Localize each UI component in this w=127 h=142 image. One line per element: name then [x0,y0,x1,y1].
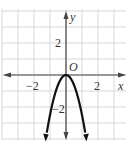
x-tick-label-2: 2 [94,79,100,93]
coordinate-plane: −2 2 2 −2 O x y [0,0,127,142]
axis-labels: −2 2 2 −2 O x y [26,10,124,116]
y-tick-label-neg2: −2 [52,102,65,116]
origin-label: O [69,60,78,74]
y-axis-label: y [69,10,76,24]
y-tick-label-2: 2 [55,36,61,50]
curve-left-arrow-icon [43,134,49,142]
x-axis-left-arrow-icon [3,73,11,78]
x-axis-right-arrow-icon [118,73,126,78]
y-axis-up-arrow-icon [64,11,69,19]
curve-right-arrow-icon [83,134,89,142]
x-tick-label-neg2: −2 [26,79,39,93]
x-axis-label: x [117,79,124,93]
